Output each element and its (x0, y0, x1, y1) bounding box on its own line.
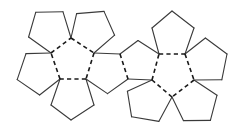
dodecahedron-net-diagram (0, 0, 236, 126)
cut-edge (26, 53, 51, 54)
background (0, 0, 236, 126)
